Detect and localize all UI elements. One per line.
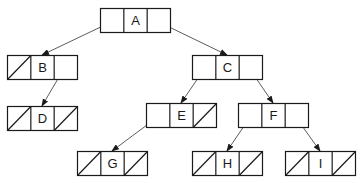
tree-node-b: B (8, 56, 78, 80)
tree-node-h: H (193, 152, 263, 176)
node-label: D (38, 111, 47, 126)
tree-node-d: D (8, 107, 78, 131)
tree-node-e: E (147, 104, 217, 128)
node-label: F (270, 108, 278, 123)
nodes-layer: ABCDEFGHI (8, 9, 356, 176)
node-label: H (223, 156, 232, 171)
tree-node-i: I (286, 152, 356, 176)
node-label: E (177, 108, 186, 123)
tree-node-c: C (193, 56, 263, 80)
tree-node-g: G (78, 152, 148, 176)
node-label: G (107, 156, 117, 171)
tree-node-a: A (101, 9, 171, 33)
node-label: I (319, 156, 323, 171)
binary-tree-diagram: ABCDEFGHI (0, 0, 363, 183)
node-label: B (38, 60, 47, 75)
tree-node-f: F (239, 104, 309, 128)
node-label: C (223, 60, 232, 75)
edges-layer (42, 21, 320, 151)
node-label: A (131, 13, 140, 28)
